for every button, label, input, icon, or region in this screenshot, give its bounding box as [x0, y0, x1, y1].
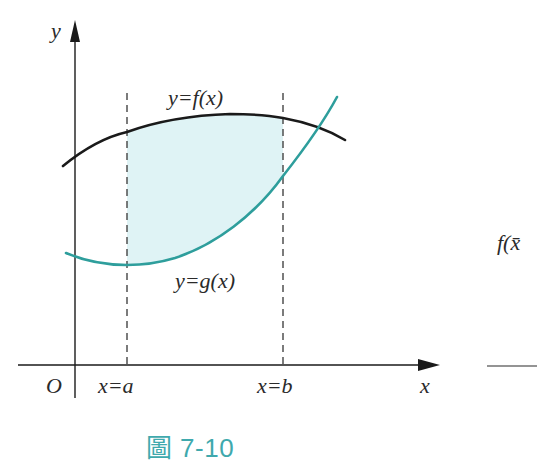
line-a-label: x=a: [97, 373, 134, 398]
x-axis-arrow-icon: [418, 359, 440, 371]
figure-caption: 圖 7-10: [0, 427, 380, 464]
origin-label: O: [46, 373, 62, 398]
y-axis-label: y: [49, 18, 61, 43]
y-axis-arrow-icon: [70, 20, 80, 42]
g-curve-label: y=g(x): [173, 268, 235, 293]
x-axis-label: x: [419, 373, 430, 398]
area-between-curves-figure: y y=f(x) y=g(x) O x=a x=b x f(x̄: [0, 0, 537, 465]
shaded-area-region: [127, 114, 283, 265]
line-b-label: x=b: [256, 373, 293, 398]
right-partial-formula: f(x̄: [497, 230, 520, 255]
f-curve-label: y=f(x): [166, 85, 223, 110]
